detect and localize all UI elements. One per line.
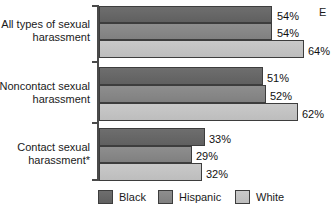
bar-value-all-types-black: 54% — [277, 11, 299, 22]
bar-value-contact-white: 32% — [206, 169, 228, 180]
bar-contact-white — [99, 163, 202, 181]
legend-label-black: Black — [119, 191, 146, 203]
category-label-all-types: All types of sexual harassment — [0, 18, 90, 44]
bar-all-types-black — [99, 6, 272, 23]
legend-swatch-hispanic-icon — [158, 190, 173, 204]
bar-value-contact-black: 33% — [209, 134, 231, 145]
axis-tick — [92, 5, 98, 7]
legend-label-white: White — [256, 191, 284, 203]
chart-legend: Black Hispanic White — [0, 188, 335, 208]
bar-all-types-white — [99, 40, 304, 58]
bar-value-all-types-hispanic: 54% — [277, 28, 299, 39]
bar-all-types-hispanic — [99, 23, 272, 40]
legend-item-black[interactable]: Black — [98, 188, 146, 206]
bar-value-noncontact-white: 62% — [302, 109, 324, 120]
legend-item-white[interactable]: White — [235, 188, 284, 206]
axis-tick — [92, 179, 98, 181]
bar-noncontact-white — [99, 103, 298, 121]
legend-swatch-black-icon — [98, 190, 113, 204]
legend-item-hispanic[interactable]: Hispanic — [158, 188, 221, 206]
bar-chart: All types of sexual harassment 54% 54% 6… — [0, 0, 335, 208]
category-label-contact: Contact sexual harassment* — [0, 141, 90, 167]
bar-value-noncontact-hispanic: 52% — [270, 91, 292, 102]
bar-value-all-types-white: 64% — [308, 46, 330, 57]
plot-area: All types of sexual harassment 54% 54% 6… — [0, 0, 335, 186]
axis-tick — [92, 122, 98, 124]
legend-label-hispanic: Hispanic — [179, 191, 221, 203]
bar-contact-black — [99, 128, 205, 146]
category-label-noncontact: Noncontact sexual harassment — [0, 80, 90, 106]
legend-swatch-white-icon — [235, 190, 250, 204]
clipped-edge-text: E — [319, 6, 335, 18]
bar-value-noncontact-black: 51% — [267, 73, 289, 84]
bar-noncontact-black — [99, 67, 263, 85]
axis-tick — [92, 61, 98, 63]
bar-value-contact-hispanic: 29% — [196, 151, 218, 162]
bar-contact-hispanic — [99, 146, 192, 163]
bar-noncontact-hispanic — [99, 85, 266, 103]
